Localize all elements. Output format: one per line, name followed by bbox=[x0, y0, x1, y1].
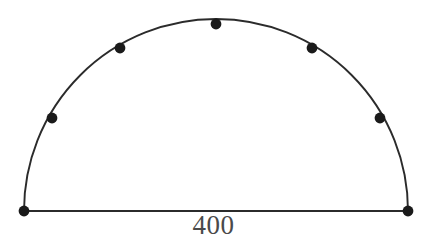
point-marker-arc-point-1 bbox=[47, 113, 58, 124]
semicircle-diagram bbox=[0, 0, 427, 244]
point-marker-arc-apex bbox=[211, 19, 222, 30]
point-layer bbox=[19, 19, 414, 217]
diameter-length-label: 400 bbox=[0, 210, 427, 240]
point-marker-arc-point-4 bbox=[307, 43, 318, 54]
shape-layer bbox=[24, 19, 408, 211]
semicircle-arc bbox=[24, 19, 408, 211]
figure-canvas: 400 bbox=[0, 0, 427, 244]
point-marker-arc-point-5 bbox=[375, 113, 386, 124]
point-marker-arc-point-2 bbox=[115, 43, 126, 54]
